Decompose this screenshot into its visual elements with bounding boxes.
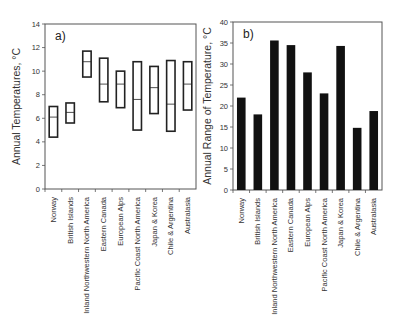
bar <box>320 93 329 190</box>
y-axis-label: Annual Range of Temperature, °C <box>201 27 213 185</box>
y-tick-label: 2 <box>36 161 40 170</box>
plot-frame <box>45 24 196 189</box>
category-label: Japan & Korea <box>336 197 345 247</box>
category-label: Chile & Argentina <box>166 196 175 255</box>
y-tick-label: 14 <box>32 20 40 29</box>
panel-b-range-bars: 0510152025303540Annual Range of Temperat… <box>201 18 382 315</box>
y-tick-label: 4 <box>36 137 40 146</box>
y-axis-label: Annual Temperatures, °C <box>10 47 22 165</box>
figure: 02468101214Annual Temperatures, °Ca)Norw… <box>0 0 397 334</box>
y-tick-label: 15 <box>220 123 228 132</box>
range-box <box>167 61 175 132</box>
category-label: Pacific Coast North America <box>320 197 329 291</box>
y-tick-label: 0 <box>224 186 228 195</box>
bar <box>353 128 362 190</box>
bar <box>287 45 296 190</box>
category-label: British Islands <box>253 198 262 245</box>
bar <box>254 114 263 190</box>
y-tick-label: 25 <box>220 81 228 90</box>
category-label: Japan & Korea <box>150 196 159 246</box>
range-box <box>150 66 158 113</box>
panel-label: a) <box>55 29 66 43</box>
range-box <box>100 58 108 102</box>
range-box <box>116 71 124 108</box>
category-label: Inland Northwestern North America <box>82 196 91 314</box>
category-label: European Alps <box>303 198 312 247</box>
category-label: Australasia <box>369 197 378 235</box>
y-tick-label: 10 <box>32 67 40 76</box>
category-label: British Islands <box>66 197 75 244</box>
category-label: Eastern Canada <box>286 197 295 252</box>
y-tick-label: 40 <box>220 18 228 27</box>
bar <box>369 111 378 190</box>
category-label: European Alps <box>116 197 125 246</box>
y-tick-label: 35 <box>220 39 228 48</box>
bar <box>237 98 246 190</box>
range-box <box>83 51 91 77</box>
bar <box>270 40 279 190</box>
y-tick-label: 20 <box>220 102 228 111</box>
y-tick-label: 8 <box>36 90 40 99</box>
bar <box>336 46 345 190</box>
y-tick-label: 5 <box>224 165 228 174</box>
bar <box>303 72 312 190</box>
y-tick-label: 12 <box>32 43 40 52</box>
y-tick-label: 0 <box>36 185 40 194</box>
panel-a-temperature-boxes: 02468101214Annual Temperatures, °Ca)Norw… <box>10 20 196 314</box>
category-label: Chile & Argentina <box>353 197 362 256</box>
category-label: Norway <box>49 197 58 223</box>
panel-label: b) <box>243 27 254 41</box>
range-box <box>133 62 141 130</box>
category-label: Australasia <box>183 196 192 234</box>
range-box <box>66 103 74 123</box>
category-label: Inland Northwestern North America <box>270 197 279 315</box>
y-tick-label: 30 <box>220 60 228 69</box>
category-label: Eastern Canada <box>99 196 108 251</box>
y-tick-label: 10 <box>220 144 228 153</box>
category-label: Pacific Coast North America <box>133 196 142 290</box>
category-label: Norway <box>237 198 246 224</box>
range-box <box>49 107 57 138</box>
range-box <box>183 62 191 110</box>
y-tick-label: 6 <box>36 114 40 123</box>
